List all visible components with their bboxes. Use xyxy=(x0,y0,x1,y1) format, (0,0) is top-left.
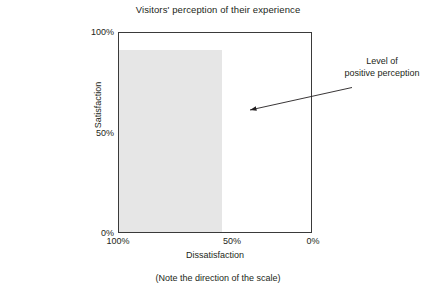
x-tick-label-50: 50% xyxy=(202,236,262,246)
annotation-label-line1: Level of xyxy=(366,56,398,66)
chart-title: Visitors' perception of their experience xyxy=(0,4,436,15)
y-tick-label-50: 50% xyxy=(80,128,114,138)
x-tick-label-0: 0% xyxy=(283,236,343,246)
annotation-label: Level of positive perception xyxy=(330,56,434,79)
x-tick-label-100: 100% xyxy=(88,236,148,246)
x-axis-tick-labels: 100% 50% 0% xyxy=(0,236,436,250)
y-tick-label-100: 100% xyxy=(80,27,114,37)
chart-footnote: (Note the direction of the scale) xyxy=(0,273,436,283)
annotation-label-line2: positive perception xyxy=(330,68,434,80)
chart-container: Visitors' perception of their experience… xyxy=(0,0,436,294)
positive-perception-band xyxy=(119,50,222,232)
x-axis-title: Dissatisfaction xyxy=(118,250,312,260)
plot-area xyxy=(118,32,312,233)
